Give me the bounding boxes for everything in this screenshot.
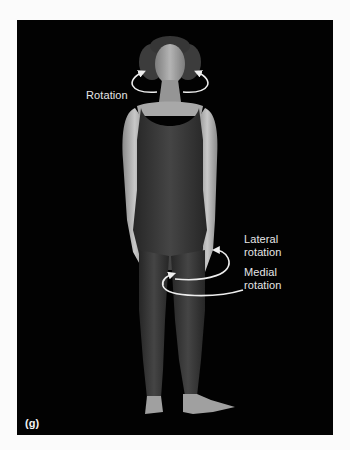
medial-line2: rotation <box>244 279 282 292</box>
lateral-rotation-label: Lateral rotation <box>244 233 282 259</box>
figure-panel: Rotation Lateral rotation Medial rotatio… <box>17 20 333 435</box>
rotation-label: Rotation <box>86 89 128 102</box>
lateral-line2: rotation <box>244 246 282 259</box>
torso-leotard <box>133 108 207 270</box>
medial-line1: Medial <box>244 266 282 279</box>
body-illustration <box>17 20 333 435</box>
medial-rotation-label: Medial rotation <box>244 266 282 292</box>
panel-label: (g) <box>25 417 39 429</box>
lateral-line1: Lateral <box>244 233 282 246</box>
